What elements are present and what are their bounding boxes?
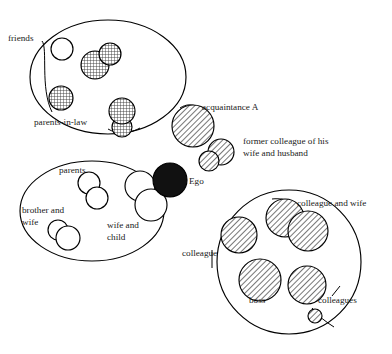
ego-network-diagram: friends parents-in-law acquaintance A fo… bbox=[0, 0, 392, 354]
label-boss: boss bbox=[249, 295, 266, 305]
label-parents-in-law: parents-in-law bbox=[34, 117, 87, 127]
label-former-colleague-line1: former colleague of his bbox=[243, 136, 329, 146]
node-friend-pair-right[interactable] bbox=[99, 43, 121, 65]
node-colleague-left[interactable] bbox=[221, 217, 257, 253]
label-ego: Ego bbox=[189, 176, 204, 186]
node-friend-open[interactable] bbox=[51, 38, 73, 60]
node-ego[interactable] bbox=[153, 163, 187, 197]
node-colleague-and-wife-right[interactable] bbox=[288, 211, 328, 251]
label-wife-and-child-line2: child bbox=[107, 232, 126, 242]
label-colleagues: colleagues bbox=[318, 295, 357, 305]
node-brother-wife[interactable] bbox=[56, 226, 80, 250]
label-brother-and-wife-line1: brother and bbox=[22, 205, 64, 215]
diagram-canvas: friends parents-in-law acquaintance A fo… bbox=[0, 0, 392, 354]
label-former-colleague-line2: wife and husband bbox=[243, 148, 308, 158]
node-colleague-small[interactable] bbox=[308, 309, 322, 323]
label-parents: parents bbox=[59, 165, 86, 175]
node-parent-lower[interactable] bbox=[86, 187, 108, 209]
label-colleague-and-wife: colleague and wife bbox=[297, 198, 366, 208]
label-friends: friends bbox=[8, 33, 34, 43]
node-former-colleague-husband[interactable] bbox=[199, 151, 219, 171]
label-wife-and-child-line1: wife and bbox=[107, 220, 139, 230]
label-colleague: colleague bbox=[182, 248, 217, 258]
node-friend-single[interactable] bbox=[49, 86, 73, 110]
label-brother-and-wife-line2: wife bbox=[22, 217, 38, 227]
node-parents-in-law-upper[interactable] bbox=[109, 98, 135, 124]
label-acquaintance-a: acquaintance A bbox=[202, 102, 259, 112]
unaffiliated-nodes bbox=[172, 105, 234, 171]
